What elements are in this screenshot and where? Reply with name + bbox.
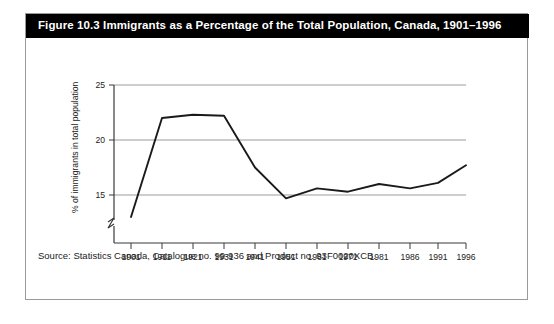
xtick-label-1996: 1996 <box>456 252 475 262</box>
y-axis <box>108 85 114 243</box>
figure-title: Figure 10.3 Immigrants as a Percentage o… <box>38 19 502 31</box>
y-axis-title: % of immigrants in total population <box>70 81 80 213</box>
y-tickmarks <box>109 85 114 195</box>
figure-title-bar: Figure 10.3 Immigrants as a Percentage o… <box>26 14 529 38</box>
line-chart: 25 20 15 % of immigrants in total popula… <box>26 38 529 270</box>
figure-source-note: Source: Statistics Canada, Catalogue no.… <box>38 250 376 261</box>
ytick-label-15: 15 <box>95 190 105 200</box>
ytick-label-25: 25 <box>95 80 105 90</box>
xtick-label-1991: 1991 <box>428 252 447 262</box>
data-series-immigrant-percentage <box>131 115 466 217</box>
axis-break-icon <box>108 218 114 228</box>
y-tick-labels: 25 20 15 <box>95 80 105 200</box>
gridlines <box>114 85 466 195</box>
xtick-label-1986: 1986 <box>400 252 419 262</box>
figure-container: Figure 10.3 Immigrants as a Percentage o… <box>25 13 528 300</box>
ytick-label-20: 20 <box>95 135 105 145</box>
x-tickmarks <box>131 243 466 249</box>
